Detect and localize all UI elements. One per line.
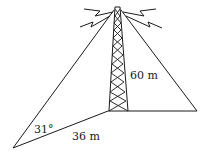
tower-diagram bbox=[0, 0, 211, 159]
angle-label: 31° bbox=[34, 124, 54, 135]
tower bbox=[109, 7, 128, 111]
signal-wave-icon-right-upper bbox=[123, 9, 156, 16]
ground-distance-label: 36 m bbox=[72, 131, 100, 142]
guy-wire-right bbox=[121, 10, 197, 111]
signal-wave-icon-right-lower bbox=[126, 16, 162, 28]
guy-wire-left bbox=[13, 10, 114, 148]
diagram-canvas: 60 m 31° 36 m bbox=[0, 0, 211, 159]
tower-height-label: 60 m bbox=[130, 70, 158, 81]
signal-wave-icon-left-upper bbox=[84, 9, 113, 16]
